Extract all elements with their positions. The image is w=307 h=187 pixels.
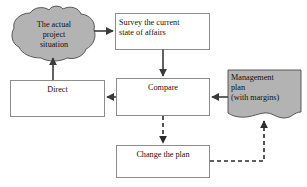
node-shape-survey [116,14,210,50]
node-shape-change-plan [117,146,210,178]
node-shape-compare [117,79,210,116]
diagram-canvas: The actual project situation Survey the … [0,0,307,187]
flowchart-graphic [0,0,307,187]
node-shape-direct [11,81,105,117]
edge-change-plan-to-management-plan [210,121,264,161]
node-shape-actual-situation [12,6,95,61]
node-shape-management-plan [228,70,301,118]
